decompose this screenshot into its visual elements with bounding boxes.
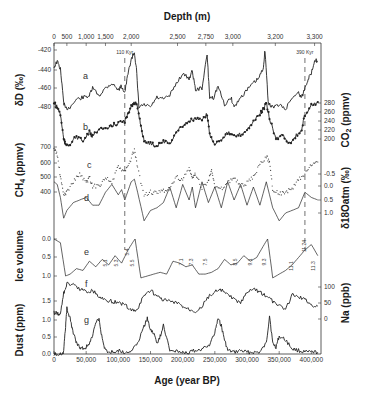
co2-point: [263, 108, 265, 110]
ch4-point: [293, 188, 294, 189]
series-e: [54, 239, 318, 278]
co2-point: [140, 125, 142, 127]
co2-point: [82, 140, 84, 142]
co2-point: [248, 127, 250, 129]
co2-point: [177, 130, 179, 132]
co2-point: [102, 128, 104, 130]
left-axis-title-dust: Dust (ppm): [14, 304, 25, 357]
ch4-point: [154, 190, 155, 191]
ch4-point: [75, 180, 76, 181]
ch4-point: [135, 157, 136, 158]
co2-point: [78, 136, 80, 138]
ch4-point: [180, 180, 181, 181]
ch4-point: [190, 170, 191, 171]
co2-point: [62, 129, 64, 131]
co2-point: [207, 120, 209, 122]
co2-point: [312, 104, 314, 106]
ch4-point: [194, 175, 195, 176]
co2-point: [171, 139, 173, 141]
ch4-point: [309, 167, 310, 168]
ch4-point: [137, 165, 138, 166]
co2-point: [128, 111, 130, 113]
ch4-point: [260, 161, 261, 162]
co2-point: [94, 131, 96, 133]
ch4-point: [55, 149, 56, 150]
ch4-point: [133, 153, 134, 154]
co2-point: [231, 133, 233, 135]
x-tick-label: 250,000: [203, 356, 227, 363]
depth-tick-label: 2,750: [198, 33, 215, 40]
ch4-point: [126, 167, 127, 168]
ch4-point: [175, 177, 176, 178]
ch4-point: [263, 161, 264, 162]
co2-point: [143, 140, 145, 142]
ch4-point: [268, 159, 269, 160]
ch4-point: [141, 185, 142, 186]
ch4-point: [231, 179, 232, 180]
ch4-point: [183, 177, 184, 178]
co2-point: [92, 134, 94, 136]
ch4-point: [82, 179, 83, 180]
marker-label: 110 Kyr: [116, 49, 133, 55]
ch4-point: [89, 176, 90, 177]
mis-label: 8.5: [232, 258, 238, 265]
ch4-point: [102, 181, 103, 182]
co2-point: [317, 101, 319, 103]
ch4-point: [269, 161, 270, 162]
ch4-point: [259, 164, 260, 165]
ch4-point: [87, 180, 88, 181]
ch4-point: [223, 187, 224, 188]
co2-point: [244, 131, 246, 133]
y-tick-label-d: -0.5: [324, 170, 336, 177]
y-tick-label-e: 1.0: [42, 272, 51, 279]
ch4-point: [78, 176, 79, 177]
ch4-point: [136, 160, 137, 161]
ch4-point: [207, 182, 208, 183]
right-axis-title-co2: CO2 (ppmv): [340, 92, 352, 147]
depth-tick-label: 2,000: [123, 33, 140, 40]
co2-point: [301, 130, 303, 132]
ch4-point: [145, 194, 146, 195]
y-tick-label-a: -420: [38, 46, 51, 53]
y-tick-label-e: 0.0: [42, 235, 51, 242]
co2-point: [141, 130, 143, 132]
co2-point: [86, 133, 88, 135]
ch4-point: [92, 187, 93, 188]
ch4-point: [249, 178, 250, 179]
ch4-point: [302, 175, 303, 176]
ch4-point: [139, 175, 140, 176]
x-tick-label: 0: [52, 356, 56, 363]
right-axis-title-d18oatm: δ18Oatm (‰): [340, 167, 351, 229]
ch4-point: [196, 177, 197, 178]
ch4-point: [67, 189, 68, 190]
x-tick-label: 100,000: [107, 356, 131, 363]
ch4-point: [206, 184, 207, 185]
co2-point: [184, 124, 186, 126]
ch4-point: [62, 188, 63, 189]
ch4-point: [254, 174, 255, 175]
ch4-point: [147, 195, 148, 196]
mis-label: 11.3: [310, 261, 316, 271]
co2-point: [308, 107, 310, 109]
y-tick-label-d: 0.0: [324, 182, 333, 189]
ch4-point: [220, 188, 221, 189]
ch4-point: [218, 187, 219, 188]
ch4-point: [313, 162, 314, 163]
ch4-point: [55, 150, 56, 151]
y-tick-label-c: 700: [40, 143, 51, 150]
ch4-point: [235, 178, 236, 179]
ch4-point: [87, 181, 88, 182]
co2-point: [149, 141, 151, 143]
ch4-point: [314, 163, 315, 164]
ch4-point: [74, 178, 75, 179]
co2-point: [279, 135, 281, 137]
co2-point: [136, 103, 138, 105]
ch4-point: [58, 160, 59, 161]
y-tick-label-d: 1.0: [324, 209, 333, 216]
ch4-point: [64, 195, 65, 196]
ch4-point: [73, 183, 74, 184]
co2-point: [227, 133, 229, 135]
ch4-point: [57, 157, 58, 158]
ch4-point: [85, 180, 86, 181]
ch4-point: [70, 186, 71, 187]
